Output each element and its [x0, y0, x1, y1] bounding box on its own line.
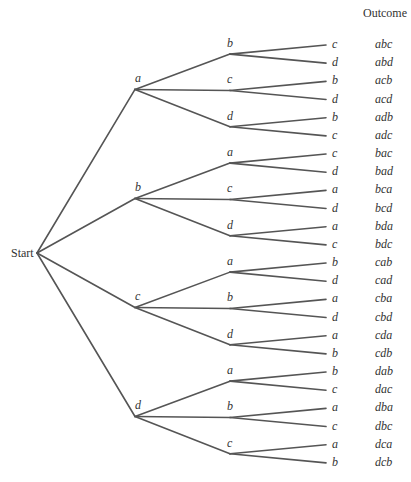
edge-dcb [230, 454, 326, 463]
level1-node-b: b [135, 181, 141, 193]
edge-cb [135, 307, 230, 308]
level2-node-cb: b [227, 291, 233, 303]
edge-ab [135, 54, 230, 89]
level2-node-ac: c [227, 73, 232, 85]
outcome-adc: adc [375, 129, 392, 141]
edge-cad [230, 272, 326, 281]
edge-adb [230, 118, 326, 127]
leaf-label: a [332, 438, 338, 450]
outcome-cda: cda [375, 329, 392, 341]
outcome-cba: cba [375, 292, 392, 304]
outcome-bdc: bdc [375, 238, 392, 250]
edge-ca [135, 272, 230, 307]
edge-da [135, 381, 230, 416]
leaf-label: d [332, 202, 338, 214]
leaf-label: c [332, 147, 337, 159]
edge-cdb [230, 345, 326, 354]
edge-bcd [230, 199, 326, 208]
outcome-bca: bca [375, 183, 392, 195]
leaf-label: b [332, 347, 338, 359]
outcome-bad: bad [375, 165, 393, 177]
edge-bc [135, 198, 230, 199]
level2-node-dc: c [227, 437, 232, 449]
edge-dbc [230, 417, 326, 426]
edge-acd [230, 90, 326, 99]
edge-bda [230, 227, 326, 236]
outcome-cab: cab [375, 256, 392, 268]
leaf-label: a [332, 183, 338, 195]
edge-cba [230, 299, 326, 308]
leaf-label: c [332, 383, 337, 395]
level2-node-cd: d [227, 328, 233, 340]
outcome-abd: abd [375, 56, 393, 68]
leaf-label: b [332, 74, 338, 86]
level1-node-d: d [135, 399, 141, 411]
edge-bad [230, 163, 326, 172]
leaf-label: d [332, 274, 338, 286]
outcome-bac: bac [375, 147, 392, 159]
leaf-label: a [332, 401, 338, 413]
edge-bac [230, 154, 326, 163]
edge-bd [135, 198, 230, 235]
edge-start-a [37, 89, 135, 253]
edge-ba [135, 163, 230, 198]
leaf-label: b [332, 256, 338, 268]
edge-cab [230, 263, 326, 272]
edge-cd [135, 307, 230, 344]
edge-acb [230, 81, 326, 90]
outcome-bcd: bcd [375, 202, 392, 214]
outcome-dcb: dcb [375, 456, 392, 468]
level2-node-bc: c [227, 182, 232, 194]
level1-node-a: a [135, 72, 141, 84]
level2-node-ba: a [227, 146, 233, 158]
level1-node-c: c [135, 290, 140, 302]
leaf-label: b [332, 456, 338, 468]
level2-node-ca: a [227, 255, 233, 267]
edge-dc [135, 416, 230, 453]
outcome-cbd: cbd [375, 311, 392, 323]
level2-node-da: a [227, 364, 233, 376]
leaf-label: c [332, 238, 337, 250]
edge-bca [230, 190, 326, 199]
edge-cbd [230, 308, 326, 317]
edge-adc [230, 127, 326, 136]
leaf-label: a [332, 220, 338, 232]
tree-diagram: Outcome Start cabcdabdbacbdacdbadbcadcab… [0, 0, 411, 482]
outcome-dca: dca [375, 438, 392, 450]
outcome-abc: abc [375, 38, 392, 50]
leaf-label: d [332, 93, 338, 105]
leaf-label: a [332, 292, 338, 304]
start-node-label: Start [11, 247, 34, 259]
edge-start-c [37, 253, 135, 307]
leaf-label: d [332, 311, 338, 323]
leaf-label: d [332, 56, 338, 68]
edge-ad [135, 89, 230, 126]
outcome-dab: dab [375, 365, 393, 377]
leaf-label: c [332, 420, 337, 432]
level2-node-ab: b [227, 37, 233, 49]
level2-node-db: b [227, 400, 233, 412]
edge-start-d [37, 253, 135, 416]
leaf-label: b [332, 365, 338, 377]
edge-ac [135, 89, 230, 90]
leaf-label: a [332, 329, 338, 341]
leaf-label: d [332, 165, 338, 177]
edge-abd [230, 54, 326, 63]
edge-dba [230, 408, 326, 417]
outcome-header: Outcome [363, 7, 407, 19]
outcome-dba: dba [375, 401, 393, 413]
outcome-acd: acd [375, 93, 392, 105]
outcome-cad: cad [375, 274, 392, 286]
level2-node-ad: d [227, 110, 233, 122]
outcome-cdb: cdb [375, 347, 392, 359]
leaf-label: c [332, 38, 337, 50]
leaf-label: b [332, 111, 338, 123]
outcome-adb: adb [375, 111, 393, 123]
edge-bdc [230, 236, 326, 245]
outcome-dbc: dbc [375, 420, 392, 432]
edge-db [135, 416, 230, 417]
tree-edges [0, 0, 411, 482]
edge-start-b [37, 198, 135, 253]
edge-abc [230, 45, 326, 54]
edge-cda [230, 336, 326, 345]
